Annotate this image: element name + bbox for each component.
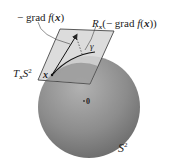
- point-x-dot: [51, 74, 53, 76]
- tangent-space-label: TxS2: [13, 67, 32, 81]
- gamma-label: γ: [90, 41, 94, 51]
- origin-dot: [83, 100, 85, 102]
- neg-grad-label: − grad f(x): [17, 11, 65, 24]
- retraction-label: Rx(− grad f(x)): [91, 17, 157, 31]
- sphere-label: S2: [118, 141, 128, 155]
- point-x-label: x: [42, 69, 48, 80]
- origin-label: 0: [86, 97, 90, 106]
- retraction-diagram: − grad f(x) Rx(− grad f(x)) TxS2 γ x 0 S…: [0, 0, 177, 163]
